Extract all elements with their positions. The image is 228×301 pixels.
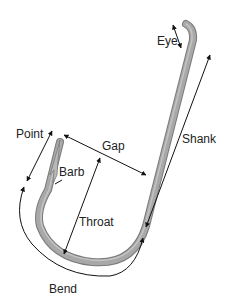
- label-shank: Shank: [182, 133, 216, 145]
- label-eye: Eye: [157, 35, 178, 47]
- fish-hook-diagram: Eye Shank Gap Point Barb Throat Bend: [0, 0, 228, 301]
- label-gap: Gap: [102, 140, 125, 152]
- label-point: Point: [16, 128, 43, 140]
- barb-leader: [55, 180, 62, 184]
- label-bend: Bend: [49, 283, 77, 295]
- label-throat: Throat: [79, 216, 114, 228]
- label-barb: Barb: [59, 166, 84, 178]
